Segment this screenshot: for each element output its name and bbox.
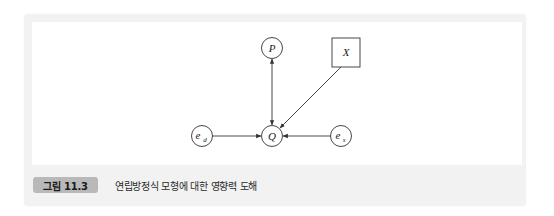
figure-caption-row: 그림 11.3 연립방정식 모형에 대한 영향력 도해 xyxy=(33,177,257,193)
figure-number-badge: 그림 11.3 xyxy=(33,177,98,193)
node-e-s: e s xyxy=(331,126,352,147)
node-q-label: Q xyxy=(268,130,276,142)
node-x-label: X xyxy=(342,46,351,58)
node-e-s-label: e xyxy=(336,129,341,141)
edge-x-q xyxy=(280,67,341,128)
node-q: Q xyxy=(262,126,283,147)
figure-caption: 연립방정식 모형에 대한 영향력 도해 xyxy=(115,178,257,193)
node-p-label: P xyxy=(268,42,276,54)
node-e-d: e d xyxy=(192,126,213,147)
node-e-s-subscript: s xyxy=(343,136,346,144)
node-e-d-label: e xyxy=(196,129,201,141)
node-e-d-subscript: d xyxy=(203,136,207,144)
influence-diagram: P X Q e d e s xyxy=(32,22,522,165)
figure-panel: P X Q e d e s xyxy=(24,14,526,206)
node-x: X xyxy=(332,38,360,67)
node-p: P xyxy=(262,38,283,59)
